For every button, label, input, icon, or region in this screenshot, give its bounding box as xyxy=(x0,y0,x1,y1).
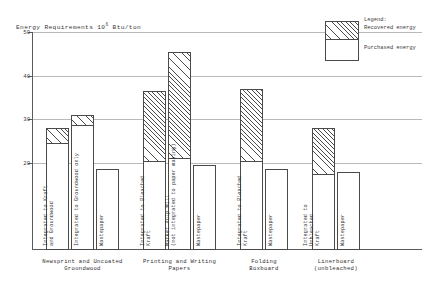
bar: Integrated to Kraft and Groundwood xyxy=(46,128,69,250)
bar: Wastepaper xyxy=(337,172,360,250)
bar: Wastepaper xyxy=(193,165,216,250)
bar-label: Integrated to Groundwood only xyxy=(74,153,80,246)
bar-label: Market Pulp Mill (not integrated to pape… xyxy=(165,143,177,246)
energy-requirements-bar-chart: Energy Requirements 106 Btu/ton 20304050… xyxy=(0,0,434,281)
bar-segment-recovered xyxy=(143,91,166,162)
bar: Integrated to Groundwood only xyxy=(71,115,94,250)
legend-swatch-recovered xyxy=(325,21,359,40)
y-tick-label-50: 50 xyxy=(23,29,30,36)
legend-entry-purchased: Purchased energy xyxy=(364,45,416,51)
bar-label: Wastepaper xyxy=(268,214,274,246)
bar: Integrated to Bleached Kraft xyxy=(143,91,166,250)
legend-swatch-purchased xyxy=(325,21,359,61)
y-tick-label-40: 40 xyxy=(23,72,30,79)
bar-label: Wastepaper xyxy=(196,214,202,246)
bar-label: Integrated to Kraft and Groundwood xyxy=(43,185,55,246)
bar: Integrated to Bleached Kraft xyxy=(240,89,263,250)
bar-segment-recovered xyxy=(46,128,69,144)
legend-entry-recovered: Recovered energy xyxy=(364,25,416,31)
bar-label: Wastepaper xyxy=(99,214,105,246)
bar-label: Integrated to Bleached Kraft xyxy=(237,175,249,246)
bar: Wastepaper xyxy=(265,169,288,250)
bar-segment-recovered xyxy=(71,115,94,126)
y-tick-label-30: 30 xyxy=(23,116,30,123)
legend-title: Legend: xyxy=(364,17,387,23)
bar-segment-recovered xyxy=(312,128,335,175)
bar-label: Integrated to Unbleached Kraft xyxy=(303,204,321,246)
y-axis-line xyxy=(32,32,33,250)
chart-title-units: Btu/ton xyxy=(109,24,142,31)
gridline-40 xyxy=(32,76,422,77)
bar: Integrated to Unbleached Kraft xyxy=(312,128,335,250)
bar: Market Pulp Mill (not integrated to pape… xyxy=(168,52,191,250)
y-tick-label-20: 20 xyxy=(23,159,30,166)
legend: Legend: Recovered energy Purchased energ… xyxy=(320,17,428,61)
bar-segment-recovered xyxy=(240,89,263,162)
plot-area: 20304050 Integrated to Kraft and Groundw… xyxy=(32,32,422,250)
bar-label: Integrated to Bleached Kraft xyxy=(140,175,152,246)
bar-label: Wastepaper xyxy=(340,214,346,246)
chart-title: Energy Requirements 106 Btu/ton xyxy=(16,22,141,31)
bar: Wastepaper xyxy=(96,169,119,250)
group-label-3: Linerboard (unbleached) xyxy=(276,258,396,272)
